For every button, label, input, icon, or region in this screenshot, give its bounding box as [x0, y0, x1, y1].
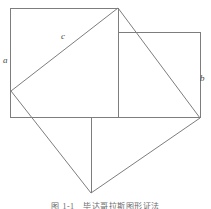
side-label-a: a: [3, 56, 8, 65]
square-a: [10, 8, 118, 117]
side-label-c: c: [61, 32, 65, 41]
pythagorean-proof-figure: a c b 图 1-1 毕达哥拉斯图形证法: [0, 0, 211, 209]
side-label-b: b: [200, 74, 205, 83]
geometry-drawing-canvas: [0, 0, 211, 209]
square-c-tilted: [11, 8, 200, 193]
figure-caption: 图 1-1 毕达哥拉斯图形证法: [0, 200, 211, 209]
square-b: [118, 32, 200, 117]
